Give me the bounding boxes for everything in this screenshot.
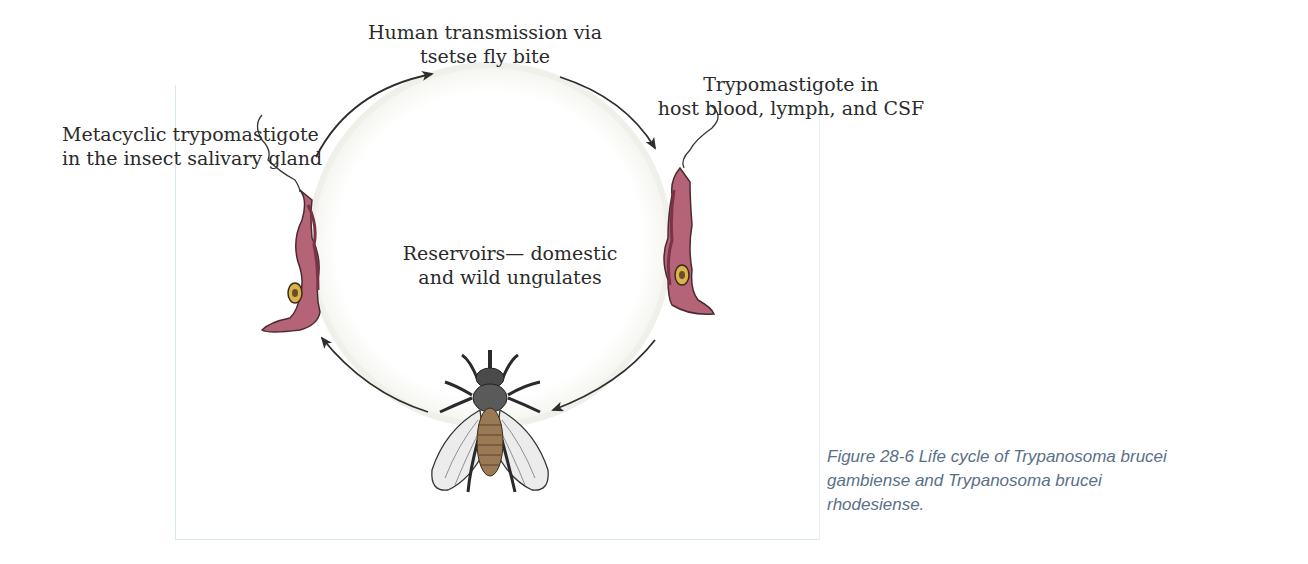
- caption-line: Figure 28-6 Life cycle of Trypanosoma br…: [827, 445, 1247, 469]
- label-line: Reservoirs— domestic: [390, 241, 630, 265]
- caption-line: gambiense and Trypanosoma brucei: [827, 469, 1247, 493]
- label-human-transmission: Human transmission via tsetse fly bite: [360, 20, 610, 68]
- label-line: Trypomastigote in: [655, 72, 927, 96]
- label-line: Metacyclic trypomastigote: [62, 122, 327, 146]
- label-line: in the insect salivary gland: [62, 146, 327, 170]
- caption-line: rhodesiense.: [827, 493, 1247, 517]
- label-reservoirs: Reservoirs— domestic and wild ungulates: [390, 241, 630, 289]
- label-line: host blood, lymph, and CSF: [655, 96, 927, 120]
- label-line: Human transmission via: [360, 20, 610, 44]
- label-line: tsetse fly bite: [360, 44, 610, 68]
- figure-caption: Figure 28-6 Life cycle of Trypanosoma br…: [827, 445, 1247, 517]
- label-host-trypomastigote: Trypomastigote in host blood, lymph, and…: [655, 72, 927, 120]
- label-line: and wild ungulates: [390, 265, 630, 289]
- right-trypanosome-icon: [664, 105, 718, 314]
- label-metacyclic-trypomastigote: Metacyclic trypomastigote in the insect …: [62, 122, 327, 170]
